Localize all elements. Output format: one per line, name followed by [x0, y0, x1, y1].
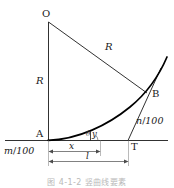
- dimension-arrow-x-right: [96, 150, 101, 154]
- dimension-arrow-l-left: [49, 160, 54, 164]
- parabolic-curve: [48, 57, 167, 140]
- grade-right-denominator: 100: [145, 115, 163, 126]
- grade-label-left: m/100: [4, 146, 34, 156]
- point-label-B: B: [152, 89, 159, 99]
- grade-label-right: n/100: [136, 116, 163, 126]
- offset-label-y: y: [92, 130, 97, 139]
- point-label-A: A: [36, 129, 43, 139]
- dimension-label-x: x: [69, 142, 74, 151]
- angle-label-theta: θ: [86, 131, 90, 138]
- point-label-O: O: [42, 9, 50, 19]
- radius-label-vertical: R: [36, 76, 44, 86]
- dimension-arrow-x-left: [49, 150, 54, 154]
- grade-left-denominator: 100: [16, 145, 34, 156]
- dimension-arrow-l-right: [124, 160, 129, 164]
- radius-line-slant: [49, 22, 148, 93]
- radius-label-slant: R: [105, 42, 113, 52]
- grade-left-numerator: m: [4, 145, 13, 156]
- figure-caption: 图 4-1-2 竖曲线要素: [0, 176, 174, 188]
- point-label-T: T: [131, 142, 138, 152]
- dimension-label-l: l: [86, 152, 89, 161]
- vertical-curve-figure: O A B T R R m/100 n/100 y θ x l 图 4-1-2 …: [0, 0, 174, 188]
